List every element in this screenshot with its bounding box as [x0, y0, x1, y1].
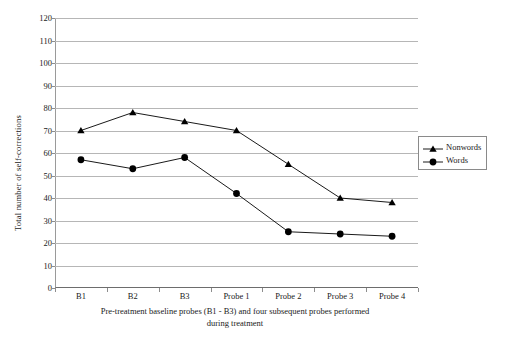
chart-legend: NonwordsWords [418, 136, 487, 170]
circle-marker-icon [337, 231, 344, 238]
circle-marker-icon [285, 228, 292, 235]
plot-area [55, 18, 418, 288]
series-line [81, 113, 392, 203]
legend-label: Words [444, 155, 468, 165]
y-axis-tick-labels: 0102030405060708090100110120 [22, 18, 52, 288]
x-tick-label: B2 [128, 291, 138, 301]
circle-marker-icon [129, 165, 136, 172]
x-tick-label: B3 [180, 291, 190, 301]
x-tick-label: Probe 1 [223, 291, 249, 301]
triangle-marker-icon [337, 194, 344, 200]
x-tick-label: Probe 2 [275, 291, 301, 301]
x-axis-tick-labels: B1B2B3Probe 1Probe 2Probe 3Probe 4 [55, 291, 418, 305]
x-axis-title-line-1: Pre-treatment baseline probes (B1 - B3) … [40, 305, 430, 317]
circle-marker-icon [422, 154, 444, 166]
series-layer [55, 18, 418, 288]
x-tick-mark [418, 288, 419, 292]
chart-figure: Total number of self-corrections 0102030… [0, 0, 508, 349]
legend-item: Nonwords [422, 140, 481, 153]
x-tick-label: Probe 4 [379, 291, 405, 301]
triangle-marker-icon [422, 141, 444, 153]
series-words [78, 154, 396, 240]
x-tick-label: B1 [76, 291, 86, 301]
legend-item: Words [422, 153, 481, 166]
x-tick-label: Probe 3 [327, 291, 353, 301]
triangle-marker-icon [129, 109, 136, 115]
circle-marker-icon [78, 156, 85, 163]
triangle-marker-icon [77, 127, 84, 133]
x-axis-title-line-2: during treatment [40, 317, 430, 329]
circle-marker-icon [233, 190, 240, 197]
circle-marker-icon [181, 154, 188, 161]
legend-label: Nonwords [444, 142, 481, 152]
triangle-marker-icon [285, 161, 292, 167]
x-axis-title: Pre-treatment baseline probes (B1 - B3) … [40, 305, 430, 329]
circle-marker-icon [389, 233, 396, 240]
